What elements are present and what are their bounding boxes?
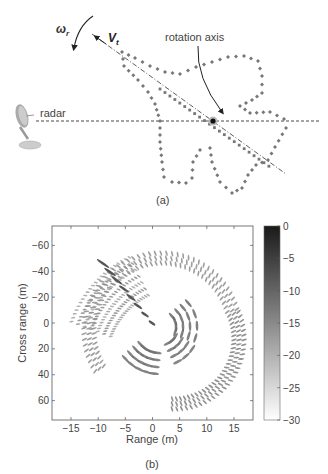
x-axis-label: Range (m) (126, 433, 178, 445)
y-tick-label: −40 (32, 266, 49, 277)
velocity-arrow-icon (96, 37, 106, 44)
colorbar-tick-label: −10 (283, 286, 300, 297)
y-tick-label: 60 (38, 395, 50, 406)
colorbar-tick-label: −25 (283, 383, 300, 394)
x-tick-label: −10 (90, 423, 107, 434)
x-tick-label: 15 (228, 423, 240, 434)
y-tick-label: 0 (43, 318, 49, 329)
geometry-diagram: radar rotation axis ωr Vt (a) (0, 0, 328, 215)
panel-b-label: (b) (145, 458, 158, 470)
colorbar-tick-label: −15 (283, 318, 300, 329)
rotation-axis-pointer (198, 46, 222, 112)
panel-a-label: (a) (156, 194, 169, 206)
y-tick-label: −60 (32, 240, 49, 251)
y-tick-label: 20 (38, 343, 50, 354)
x-tick-label: 10 (201, 423, 213, 434)
y-tick-label: 40 (38, 369, 50, 380)
colorbar-tick-label: −5 (283, 253, 295, 264)
velocity-label: Vt (108, 31, 119, 47)
colorbar-tick-label: 0 (283, 221, 289, 232)
colorbar-tick-label: −30 (283, 415, 300, 426)
y-tick-label: −20 (32, 292, 49, 303)
y-axis-label: Cross range (m) (16, 283, 28, 362)
isar-plot: −15−10−5051015 −60−40−200204060 Range (m… (0, 215, 328, 474)
rotation-axis-label: rotation axis (165, 31, 225, 43)
colorbar-ticks: 0−5−10−15−20−25−30 (277, 221, 300, 426)
radar-label: radar (40, 107, 66, 119)
aircraft-axis (92, 34, 286, 174)
omega-label: ωr (56, 22, 70, 38)
x-tick-label: −15 (63, 423, 80, 434)
colorbar-tick-label: −20 (283, 350, 300, 361)
radar-dish-icon (13, 103, 41, 149)
rotation-arrow-icon (74, 16, 93, 48)
aircraft-scatterers (120, 50, 288, 195)
